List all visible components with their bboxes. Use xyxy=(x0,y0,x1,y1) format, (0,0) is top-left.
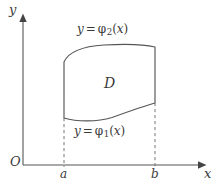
upper-curve-variable: x xyxy=(117,22,124,36)
x-tick-label-a: a xyxy=(60,168,67,180)
lower-curve-equals: = xyxy=(81,124,95,138)
x-tick-label-b: b xyxy=(151,168,159,180)
math-figure: y x O a b D y=φ2(x) y=φ1(x) xyxy=(0,0,218,195)
x-axis-label: x xyxy=(204,167,211,180)
upper-curve-label: y=φ2(x) xyxy=(77,23,128,37)
origin-label: O xyxy=(10,155,21,168)
lower-curve-lhs: y xyxy=(74,124,81,138)
upper-curve-equals: = xyxy=(84,22,98,36)
lower-curve-label: y=φ1(x) xyxy=(74,125,125,139)
lower-curve-close-paren: ) xyxy=(121,124,126,138)
y-axis-label: y xyxy=(9,3,16,16)
lower-curve-function: φ xyxy=(95,124,103,138)
y-axis xyxy=(19,14,26,166)
y-axis-arrowhead xyxy=(19,14,26,23)
region-label-d: D xyxy=(104,76,115,90)
upper-curve-lhs: y xyxy=(77,22,84,36)
upper-curve-close-paren: ) xyxy=(124,22,129,36)
x-axis xyxy=(23,161,207,168)
lower-curve-variable: x xyxy=(114,124,121,138)
upper-curve-function: φ xyxy=(98,22,106,36)
